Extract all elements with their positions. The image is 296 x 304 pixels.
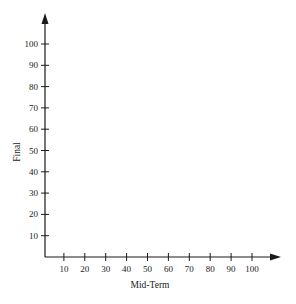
y-tick-label: 10 (29, 231, 39, 241)
x-tick-label: 90 (227, 264, 237, 274)
y-axis-arrow-icon (42, 13, 49, 24)
y-tick-label: 100 (25, 39, 39, 49)
x-tick-label: 20 (80, 264, 90, 274)
x-tick-label: 100 (245, 264, 259, 274)
y-tick-label: 20 (29, 209, 39, 219)
x-tick-label: 50 (143, 264, 153, 274)
y-tick-label: 60 (29, 124, 39, 134)
x-tick-label: 30 (101, 264, 111, 274)
y-axis-title: Final (12, 142, 22, 162)
x-axis-title: Mid-Term (131, 280, 171, 290)
y-tick-label: 30 (29, 188, 39, 198)
scatter-plot-blank: 102030405060708090100 102030405060708090… (0, 0, 296, 304)
x-tick-label: 70 (185, 264, 195, 274)
x-tick-label: 10 (59, 264, 69, 274)
x-axis: 102030405060708090100 (45, 253, 281, 274)
x-tick-label: 40 (122, 264, 132, 274)
y-tick-label: 70 (29, 103, 39, 113)
x-tick-label: 80 (206, 264, 216, 274)
y-tick-label: 90 (29, 60, 39, 70)
y-tick-label: 80 (29, 82, 39, 92)
y-axis: 102030405060708090100 (25, 13, 50, 257)
y-tick-label: 40 (29, 167, 39, 177)
x-tick-label: 60 (164, 264, 174, 274)
y-tick-label: 50 (29, 146, 39, 156)
x-axis-arrow-icon (270, 254, 281, 261)
